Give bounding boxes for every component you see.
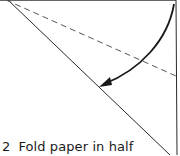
valley-fold-dashed-line [6, 0, 176, 76]
origami-step-diagram: 2Fold paper in half [0, 0, 180, 156]
diagonal-fold-edge [8, 0, 170, 155]
step-caption: 2Fold paper in half [2, 139, 133, 154]
fold-diagram-graphic [0, 0, 180, 156]
step-instruction: Fold paper in half [18, 139, 133, 154]
arrowhead-icon [99, 77, 112, 87]
fold-direction-arrow [104, 4, 174, 84]
step-number: 2 [2, 139, 10, 154]
right-edge [176, 0, 177, 155]
